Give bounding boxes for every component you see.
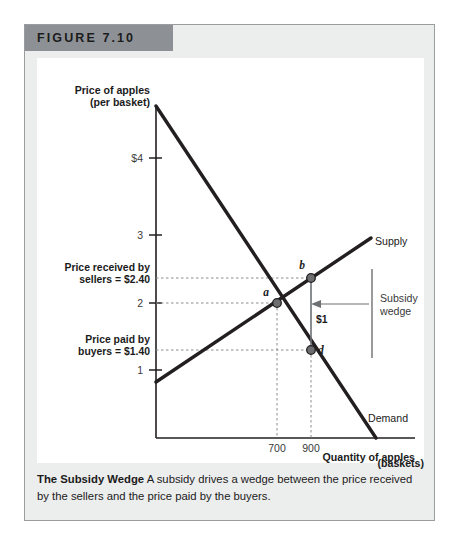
point-b-dot xyxy=(307,274,316,283)
figure-caption: The Subsidy Wedge A subsidy drives a wed… xyxy=(37,471,427,504)
x-axis-title-line2-wrap: (baskets) xyxy=(37,457,424,469)
subsidy-wedge-line2: wedge xyxy=(379,305,411,317)
caption-title: The Subsidy Wedge xyxy=(37,473,144,485)
price-received-annotation: Price received by sellers = $2.40 xyxy=(65,262,151,285)
chart-area: Price of apples (per basket) $4 3 2 1 xyxy=(37,58,424,463)
x-axis-ticks: 700 900 xyxy=(268,442,320,454)
y-axis-title: Price of apples (per basket) xyxy=(75,84,150,108)
arrow-head-icon xyxy=(311,300,321,308)
axis-lines xyxy=(156,105,415,438)
point-d-dot xyxy=(307,346,316,355)
supply-curve xyxy=(156,238,371,382)
point-b-label: b xyxy=(299,259,305,271)
point-a-label: a xyxy=(263,286,269,298)
demand-curve xyxy=(156,106,376,438)
point-d-label: d xyxy=(318,344,324,356)
figure-number-band: FIGURE 7.10 xyxy=(25,25,173,51)
price-paid-line2: buyers = $1.40 xyxy=(78,346,150,357)
x-tick-label-700: 700 xyxy=(268,442,286,454)
price-paid-line1: Price paid by xyxy=(85,334,150,345)
figure-panel: FIGURE 7.10 Price of apples (per basket)… xyxy=(24,24,435,521)
y-axis-title-line2: (per basket) xyxy=(90,96,150,108)
y-tick-label-3: 3 xyxy=(137,229,143,241)
supply-demand-chart: Price of apples (per basket) $4 3 2 1 xyxy=(37,58,424,463)
price-received-line2: sellers = $2.40 xyxy=(79,274,150,285)
x-tick-label-900: 900 xyxy=(302,442,320,454)
price-received-line1: Price received by xyxy=(65,262,151,273)
demand-curve-label: Demand xyxy=(368,412,408,424)
x-axis-title-line2: (baskets) xyxy=(377,457,424,469)
figure-number-label: FIGURE 7.10 xyxy=(37,31,135,45)
y-tick-label-2: 2 xyxy=(137,297,143,309)
subsidy-wedge-label: Subsidy wedge xyxy=(379,292,418,317)
y-tick-label-1: 1 xyxy=(137,364,143,376)
seller-price-point-b: b xyxy=(299,259,315,282)
y-tick-label-4: $4 xyxy=(131,152,143,164)
subsidy-wedge-line1: Subsidy xyxy=(380,292,418,304)
subsidy-wedge-arrow xyxy=(311,300,369,308)
point-a-dot xyxy=(273,299,282,308)
price-paid-annotation: Price paid by buyers = $1.40 xyxy=(78,334,150,357)
wedge-amount-label: $1 xyxy=(316,314,328,325)
supply-curve-label: Supply xyxy=(375,235,408,247)
y-axis-title-line1: Price of apples xyxy=(75,84,150,96)
